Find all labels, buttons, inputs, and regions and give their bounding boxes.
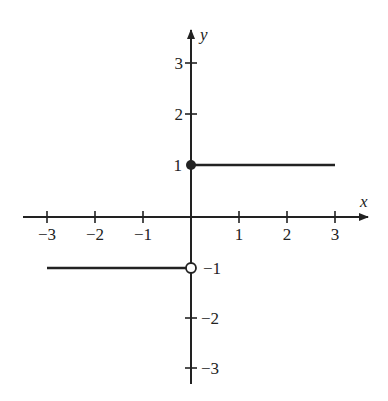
- y-axis-label: y: [198, 25, 208, 44]
- y-tick-label: −2: [201, 309, 219, 328]
- y-tick-label: 1: [174, 156, 183, 175]
- open-point-icon: [186, 263, 196, 273]
- x-tick-label: −1: [134, 225, 152, 244]
- y-tick-label: −1: [203, 259, 221, 278]
- y-tick-label: 3: [175, 54, 184, 73]
- x-tick-label: 2: [283, 225, 292, 244]
- y-tick-label: −3: [201, 359, 219, 378]
- x-tick-label: 1: [235, 225, 244, 244]
- x-tick-label: −2: [86, 225, 104, 244]
- x-tick-label: −3: [38, 225, 56, 244]
- closed-point-icon: [186, 160, 196, 170]
- x-axis-label: x: [359, 192, 368, 211]
- y-tick-label: 2: [175, 105, 184, 124]
- step-function-graph: −3 −2 −1 1 2 3 3 2 1 −1 −2 −3 x y: [0, 0, 388, 401]
- x-tick-label: 3: [331, 225, 340, 244]
